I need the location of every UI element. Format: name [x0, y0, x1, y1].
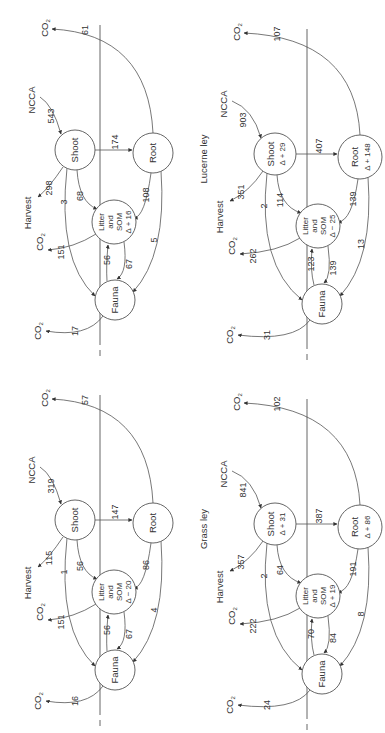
co2-label-fauna: CO2 [32, 322, 44, 340]
litter-label-line1: Litter [97, 213, 106, 231]
flow-value-root-to-co2: 57 [80, 395, 90, 405]
flow-value-shoot-to-root: 147 [110, 504, 120, 519]
flow-root-to-co2 [244, 33, 360, 135]
flow-shoot-to-litter [77, 540, 97, 579]
flow-value-shoot-to-harvest: 298 [44, 180, 54, 195]
flow-value-root-to-fauna: 4 [149, 607, 159, 612]
litter-delta: Δ − 20 [124, 580, 133, 603]
flow-litter-to-co2 [48, 234, 96, 250]
flow-value-shoot-to-fauna: 3 [59, 199, 69, 204]
flow-value-ncca-to-shoot: 903 [238, 112, 248, 127]
litter-delta: Δ − 25 [328, 214, 337, 237]
flow-value-root-to-litter: 191 [348, 561, 358, 576]
flow-value-litter-to-co2: 262 [248, 248, 258, 263]
flow-value-shoot-to-root: 387 [314, 508, 324, 523]
co2-subscript: 2 [230, 696, 236, 700]
flow-value-fauna-to-litter: 56 [102, 255, 112, 265]
co2-label-fauna: CO2 [224, 696, 236, 714]
flow-fauna-to-co2 [238, 690, 310, 707]
fauna-label: Fauna [316, 290, 327, 318]
flow-value-litter-to-fauna: 67 [124, 629, 134, 639]
flow-value-shoot-to-litter: 56 [75, 561, 85, 571]
co2-label-text: CO [231, 397, 242, 411]
root-delta: Δ + 86 [363, 515, 372, 538]
co2-label-litter: CO2 [34, 233, 46, 251]
flow-root-to-co2 [52, 399, 153, 503]
co2-subscript: 2 [38, 322, 44, 326]
shoot-label: Shoot [265, 141, 276, 166]
litter-label-line2: and [106, 585, 115, 598]
litter-label-line3: SOM [319, 587, 328, 606]
flow-value-shoot-to-fauna: 2 [259, 573, 269, 578]
ncca-label: NCCA [26, 456, 37, 484]
co2-label-text: CO [226, 611, 237, 625]
co2-label-text: CO [32, 326, 43, 340]
co2-label-litter: CO2 [226, 237, 238, 255]
fauna-label: Fauna [109, 286, 120, 314]
litter-label-line3: SOM [115, 583, 124, 602]
ncca-label: NCCA [218, 460, 229, 488]
flow-value-root-to-co2: 102 [272, 396, 282, 411]
flow-value-root-to-fauna: 8 [356, 611, 366, 616]
co2-subscript: 2 [40, 233, 46, 237]
co2-label-root: CO2 [39, 389, 51, 407]
litter-label-line2: and [106, 215, 115, 228]
co2-subscript: 2 [38, 692, 44, 696]
flow-value-shoot-to-litter: 64 [275, 565, 285, 575]
flow-value-fauna-to-co2: 31 [262, 330, 272, 340]
root-node [338, 505, 382, 549]
carbon-flow-diagram: NCCA543174CO261Harvest2986831085CO215167… [0, 0, 385, 733]
flow-value-root-to-litter: 139 [348, 191, 358, 206]
flow-value-litter-to-co2: 151 [56, 244, 66, 259]
root-label: Root [349, 147, 360, 167]
co2-label-text: CO [226, 241, 237, 255]
co2-subscript: 2 [45, 19, 51, 23]
flow-value-litter-to-co2: 151 [56, 614, 66, 629]
co2-subscript: 2 [45, 389, 51, 393]
flow-value-root-to-litter: 86 [141, 560, 151, 570]
co2-label-text: CO [39, 23, 50, 37]
flow-value-shoot-to-litter: 68 [75, 191, 85, 201]
fauna-label: Fauna [109, 656, 120, 684]
flow-value-fauna-to-co2: 24 [262, 700, 272, 710]
root-label: Root [349, 517, 360, 537]
flow-value-fauna-to-litter: 70 [306, 629, 316, 639]
co2-label-text: CO [224, 330, 235, 344]
flow-value-root-to-co2: 61 [80, 25, 90, 35]
harvest-label: Harvest [214, 570, 225, 603]
litter-label-line1: Litter [97, 583, 106, 601]
co2-label-litter: CO2 [226, 607, 238, 625]
flow-value-shoot-to-litter: 114 [275, 193, 285, 207]
co2-label-text: CO [34, 607, 45, 621]
flow-value-litter-to-fauna: 84 [328, 633, 338, 643]
root-delta: Δ + 148 [363, 143, 372, 171]
co2-label-root: CO2 [231, 23, 243, 41]
flow-value-shoot-to-root: 174 [110, 134, 120, 149]
flow-value-shoot-to-harvest: 357 [236, 554, 246, 569]
co2-subscript: 2 [230, 326, 236, 330]
co2-label-text: CO [34, 237, 45, 251]
flow-shoot-to-harvest [230, 171, 263, 201]
shoot-label: Shoot [69, 507, 80, 532]
fauna-label: Fauna [316, 660, 327, 688]
litter-label-line3: SOM [319, 217, 328, 236]
flow-litter-to-co2 [48, 604, 96, 620]
flow-value-root-to-fauna: 5 [149, 237, 159, 242]
panel-c: NCCA319147CO257Harvest115561864CO2151675… [22, 389, 173, 726]
flow-value-litter-to-co2: 222 [248, 618, 258, 633]
co2-label-text: CO [39, 393, 50, 407]
flow-value-litter-to-fauna: 67 [124, 259, 134, 269]
co2-label-litter: CO2 [34, 603, 46, 621]
co2-label-root: CO2 [39, 19, 51, 37]
flow-value-root-to-co2: 107 [272, 26, 282, 41]
co2-subscript: 2 [232, 237, 238, 241]
co2-label-text: CO [32, 696, 43, 710]
litter-delta: Δ + 19 [328, 584, 337, 607]
litter-label-line2: and [310, 219, 319, 232]
flow-value-fauna-to-litter: 56 [102, 625, 112, 635]
shoot-label: Shoot [69, 137, 80, 162]
flow-value-shoot-to-fauna: 2 [259, 203, 269, 208]
co2-subscript: 2 [232, 607, 238, 611]
ncca-label: NCCA [218, 90, 229, 118]
co2-subscript: 2 [40, 603, 46, 607]
